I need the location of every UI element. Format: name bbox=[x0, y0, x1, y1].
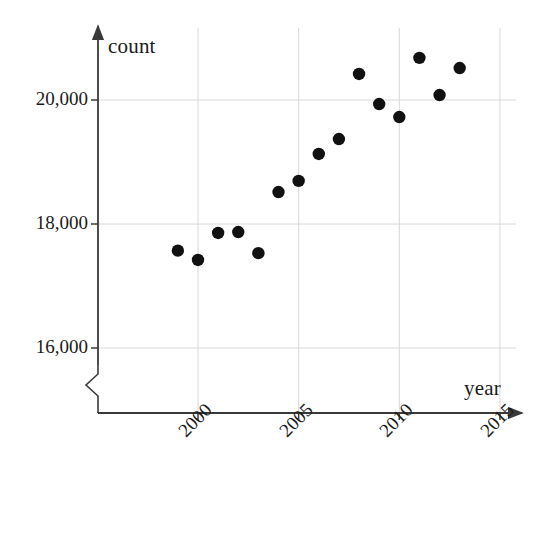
data-point bbox=[453, 62, 465, 74]
data-point bbox=[292, 175, 304, 187]
data-point bbox=[413, 52, 425, 64]
data-point bbox=[172, 244, 184, 256]
data-point bbox=[333, 133, 345, 145]
plot-area bbox=[0, 0, 550, 537]
y-tick-marks bbox=[91, 100, 98, 348]
y-tick-label: 18,000 bbox=[2, 212, 88, 234]
data-point-group bbox=[172, 52, 466, 267]
x-tick-marks bbox=[198, 413, 500, 420]
scatter-chart: count year 16,00018,00020,000 2000200520… bbox=[0, 0, 550, 537]
data-point bbox=[252, 247, 264, 259]
data-point bbox=[373, 98, 385, 110]
gridlines bbox=[98, 28, 516, 413]
data-point bbox=[433, 89, 445, 101]
data-point bbox=[232, 226, 244, 238]
data-point bbox=[353, 68, 365, 80]
data-point bbox=[192, 254, 204, 266]
data-point bbox=[393, 111, 405, 123]
y-axis-title: count bbox=[108, 34, 156, 59]
data-point bbox=[272, 186, 284, 198]
x-axis-title: year bbox=[464, 376, 501, 401]
data-point bbox=[212, 227, 224, 239]
y-tick-label: 16,000 bbox=[2, 336, 88, 358]
data-point bbox=[313, 148, 325, 160]
y-tick-label: 20,000 bbox=[2, 88, 88, 110]
axis-break-icon bbox=[86, 365, 98, 413]
